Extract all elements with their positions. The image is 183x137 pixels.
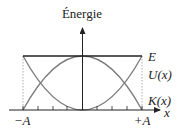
- energy-diagram: Énergie E U(x) K(x) x −A +A: [0, 0, 183, 137]
- energy-label: E: [147, 49, 156, 64]
- plus-a-label: +A: [134, 113, 151, 128]
- x-axis-label: x: [163, 105, 170, 120]
- minus-a-label: −A: [14, 113, 31, 128]
- energy-axis-label: Énergie: [62, 6, 102, 21]
- potential-label: U(x): [148, 67, 172, 82]
